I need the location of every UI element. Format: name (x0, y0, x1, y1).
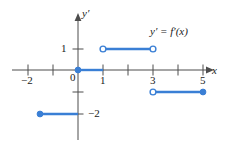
x-tick-label-5: 5 (200, 75, 206, 86)
y-axis-arrow-icon (75, 13, 82, 21)
endpoint-open-left-one (100, 46, 106, 52)
x-tick-label-1: 1 (100, 75, 106, 86)
endpoint-open-right-one (150, 46, 156, 52)
function-segments-group (37, 46, 206, 117)
x-tick-label-3: 3 (150, 75, 156, 86)
y-axis-label: y′ (82, 8, 89, 19)
curve-equation-label: y′ = f′(x) (150, 26, 188, 37)
x-tick-label--2: −2 (21, 75, 33, 86)
y-tick-label-1: 1 (61, 43, 67, 54)
derivative-step-graph-figure: x y′ 0 −2 1 3 5 1 −2 y′ = f′(x) (0, 0, 236, 148)
origin-label: 0 (70, 72, 76, 83)
y-tick-label--2: −2 (88, 108, 100, 119)
endpoint-closed-left-neg2 (37, 111, 43, 117)
endpoint-closed-right-neg1 (200, 89, 206, 95)
x-axis-label: x (212, 65, 217, 76)
endpoint-open-left-neg1 (150, 89, 156, 95)
